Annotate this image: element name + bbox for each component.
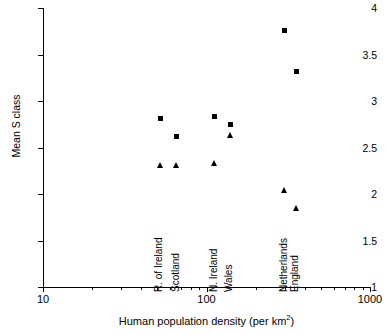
x-tick-label: 100	[187, 294, 227, 305]
x-minor-tick	[199, 287, 200, 290]
x-minor-tick	[181, 287, 182, 290]
y-tick	[38, 8, 43, 9]
x-axis-title-tail: )	[291, 315, 295, 327]
x-minor-tick	[363, 287, 364, 290]
y-tick	[38, 101, 43, 102]
country-label: Netherlands	[279, 238, 289, 292]
x-minor-tick	[321, 287, 322, 290]
x-minor-tick	[191, 287, 192, 290]
country-label: Scotland	[171, 253, 181, 292]
y-tick-label: 2.5	[343, 143, 377, 153]
x-minor-tick	[141, 287, 142, 290]
x-minor-tick	[334, 287, 335, 290]
y-axis-title: Mean S class	[10, 66, 22, 186]
triangle-marker	[227, 132, 233, 138]
x-major-tick	[43, 287, 44, 292]
square-marker	[174, 134, 179, 139]
country-label: Wales	[224, 265, 234, 292]
x-tick-label: 10	[23, 294, 63, 305]
x-minor-tick	[121, 287, 122, 290]
triangle-marker	[173, 162, 179, 168]
country-label: N. Ireland	[209, 249, 219, 292]
y-tick	[38, 148, 43, 149]
x-major-tick	[370, 287, 371, 292]
y-tick	[38, 55, 43, 56]
y-tick-label: 2	[343, 189, 377, 199]
country-label: R. of Ireland	[154, 238, 164, 292]
square-marker	[228, 122, 233, 127]
y-tick-label: 3.5	[343, 50, 377, 60]
y-tick	[38, 241, 43, 242]
country-label: England	[290, 255, 300, 292]
x-tick-label: 1000	[350, 294, 387, 305]
x-axis-title: Human population density (per km2)	[43, 313, 370, 327]
triangle-marker	[281, 187, 287, 193]
y-axis-line	[43, 8, 44, 288]
triangle-marker	[157, 162, 163, 168]
x-axis-title-main: Human population density (per km	[119, 315, 287, 327]
y-tick-label: 3	[343, 96, 377, 106]
square-marker	[282, 28, 287, 33]
x-minor-tick	[305, 287, 306, 290]
square-marker	[212, 114, 217, 119]
x-minor-tick	[345, 287, 346, 290]
y-tick-label: 1.5	[343, 236, 377, 246]
x-minor-tick	[354, 287, 355, 290]
x-minor-tick	[92, 287, 93, 290]
triangle-marker	[211, 160, 217, 166]
square-marker	[158, 116, 163, 121]
square-marker	[294, 69, 299, 74]
y-tick	[38, 194, 43, 195]
x-minor-tick	[256, 287, 257, 290]
y-tick-label: 1	[343, 282, 377, 292]
triangle-marker	[293, 205, 299, 211]
y-tick-label: 4	[343, 3, 377, 13]
